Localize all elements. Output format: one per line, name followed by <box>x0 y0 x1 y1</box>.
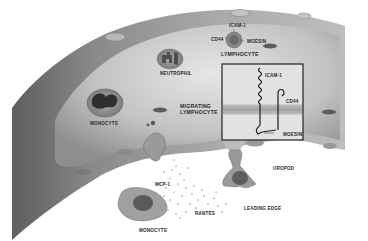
vessel-illustration <box>0 0 368 241</box>
label-monocyte-tissue: MONOCYTE <box>139 228 167 233</box>
diagram-canvas: ICAM-1 CD44 MOESIN LYMPHOCYTE NEUTROPHIL… <box>0 0 368 241</box>
label-moesin-inset: MOESIN <box>283 132 302 137</box>
label-cd44-top: CD44 <box>211 37 224 42</box>
label-uropod: UROPOD <box>273 166 294 171</box>
label-mcp1: MCP-1 <box>155 182 170 187</box>
label-icam1-inset: ICAM-1 <box>265 73 282 78</box>
monocyte-vessel-cell <box>87 89 123 117</box>
label-migrating-lymphocyte: LYMPHOCYTE <box>180 110 218 115</box>
label-monocyte-vessel: MONOCYTE <box>90 121 118 126</box>
inset-membrane-box <box>222 64 303 150</box>
label-neutrophil: NEUTROPHIL <box>160 71 192 76</box>
label-cd44-inset: CD44 <box>286 99 299 104</box>
label-moesin-top: MOESIN <box>247 39 266 44</box>
label-leading-edge: LEADING EDGE <box>244 206 281 211</box>
monocyte-tissue-cell <box>118 188 167 221</box>
label-rantes: RANTES <box>195 211 215 216</box>
neutrophil-cell <box>157 49 183 69</box>
chemokine-gradient-dots <box>159 159 226 218</box>
label-icam1-top: ICAM-1 <box>229 23 246 28</box>
migrating-cell-tissue <box>223 150 256 188</box>
label-lymphocyte: LYMPHOCYTE <box>221 52 259 57</box>
